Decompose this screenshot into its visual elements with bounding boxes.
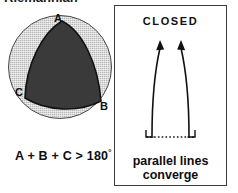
figure-title: Riemannian bbox=[4, 0, 122, 5]
closed-panel: CLOSED parallel lines converge bbox=[114, 5, 227, 186]
degree-symbol: ° bbox=[108, 148, 111, 157]
vertex-label-b: B bbox=[100, 101, 108, 112]
closed-heading: CLOSED bbox=[115, 15, 226, 27]
vertex-label-a: A bbox=[54, 13, 62, 24]
spherical-triangle bbox=[6, 13, 114, 137]
closed-panel-caption: parallel lines converge bbox=[115, 154, 226, 182]
angle-sum-formula: A + B + C > 180° bbox=[15, 148, 112, 163]
sphere-figure: A C B bbox=[6, 13, 114, 137]
spherical-triangle-shape bbox=[25, 21, 101, 109]
converging-lines-diagram bbox=[129, 32, 214, 144]
caption-line-2: converge bbox=[115, 168, 226, 182]
caption-line-1: parallel lines bbox=[115, 154, 226, 168]
arrowhead-left-icon bbox=[156, 40, 164, 50]
converging-line-left bbox=[152, 48, 160, 136]
converging-line-right bbox=[181, 48, 189, 136]
figure-title-clip: Riemannian bbox=[4, 0, 122, 5]
arrowhead-right-icon bbox=[177, 40, 185, 50]
vertex-label-c: C bbox=[15, 87, 23, 98]
angle-sum-text: A + B + C > 180 bbox=[15, 149, 108, 163]
